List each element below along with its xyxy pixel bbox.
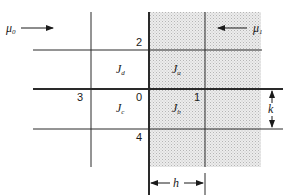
region-label-Jd: Jd <box>116 62 125 77</box>
node-label-1: 1 <box>194 91 200 103</box>
finite-difference-grid-diagram: μ0 μ1 2 3 0 1 4 Jd Ja Jc Jb k h <box>0 0 300 195</box>
k-dimension: k <box>268 91 274 127</box>
node-label-4: 4 <box>136 131 142 143</box>
node-label-2: 2 <box>136 36 142 48</box>
svg-text:Jc: Jc <box>116 101 125 116</box>
region-label-Jc: Jc <box>116 101 125 116</box>
svg-text:h: h <box>173 176 179 190</box>
node-label-3: 3 <box>77 91 83 103</box>
h-dimension: h <box>151 176 203 190</box>
mu0-label: μ0 <box>5 21 53 36</box>
svg-text:k: k <box>268 102 274 116</box>
svg-text:Jd: Jd <box>116 62 125 77</box>
svg-text:μ0: μ0 <box>5 21 16 36</box>
node-label-0: 0 <box>136 91 142 103</box>
